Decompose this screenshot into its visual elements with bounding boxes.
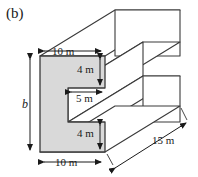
extension-line-near xyxy=(107,154,113,165)
dimension-label-total-height: b xyxy=(22,98,28,110)
figure-container: (b) xyxy=(0,0,198,177)
dimension-label-top-flange-width: 10 m xyxy=(52,46,74,57)
dimension-label-bottom-flange-thickness: 4 m xyxy=(77,128,94,139)
dimension-label-beam-length: 15 m xyxy=(152,135,174,146)
dimension-label-top-flange-thickness: 4 m xyxy=(77,64,94,75)
extension-line-far xyxy=(181,108,187,120)
beam-diagram-svg xyxy=(0,0,198,177)
beam-solid xyxy=(40,10,180,152)
dimension-label-bottom-flange-width: 10 m xyxy=(55,157,77,168)
dimension-label-web-length: 5 m xyxy=(76,93,93,104)
